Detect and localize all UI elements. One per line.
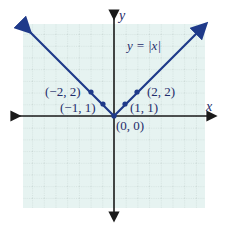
label-2-2: (2, 2) xyxy=(147,84,175,99)
abs-value-graph: y x y = |x| (−2, 2) (−1, 1) (0, 0) (1, 1… xyxy=(0,0,227,229)
point-neg1-1 xyxy=(100,101,105,106)
point-2-2 xyxy=(134,89,139,94)
label-neg1-1: (−1, 1) xyxy=(60,100,96,115)
equation-label: y = |x| xyxy=(125,38,161,53)
x-axis-label: x xyxy=(205,99,213,114)
point-1-1 xyxy=(122,101,127,106)
label-1-1: (1, 1) xyxy=(130,100,158,115)
point-neg2-2 xyxy=(88,89,93,94)
chart-container: y x y = |x| (−2, 2) (−1, 1) (0, 0) (1, 1… xyxy=(0,0,227,229)
label-origin: (0, 0) xyxy=(116,118,144,133)
y-axis-label: y xyxy=(117,8,126,23)
label-neg2-2: (−2, 2) xyxy=(45,84,81,99)
